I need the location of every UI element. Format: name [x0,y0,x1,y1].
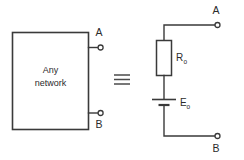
equivalence-sign-icon [114,75,130,84]
resistor-ro-label-subscript: o [184,58,188,65]
left-terminal-a-node [98,45,103,50]
any-network-label-line2: network [35,78,67,88]
resistor-ro [157,41,172,100]
thevenin-equivalent-figure: Any network A B A B R o E o [0,0,244,160]
right-terminal-b-node [215,134,220,139]
right-terminal-a-label: A [212,4,219,16]
voltage-source-eo-label-subscript: o [187,103,191,110]
right-terminal-a-node [215,23,220,28]
right-terminal-b-label: B [212,142,219,154]
left-terminal-a-label: A [95,26,102,38]
circuit-diagram-canvas: Any network A B A B R o E o [0,0,244,160]
voltage-source-eo [152,100,176,106]
left-terminal-a [89,45,104,50]
any-network-label-line1: Any [43,65,59,75]
right-top-wire [164,25,215,40]
resistor-ro-label-main: R [176,52,183,63]
resistor-ro-label: R o [176,52,188,65]
left-terminal-b [89,111,104,116]
resistor-ro-body [157,41,172,76]
right-bottom-wire [164,105,215,136]
left-terminal-b-node [98,111,103,116]
voltage-source-eo-label: E o [180,97,191,110]
right-top-branch [164,23,220,41]
left-terminal-b-label: B [95,118,102,130]
right-bottom-branch [164,105,220,139]
